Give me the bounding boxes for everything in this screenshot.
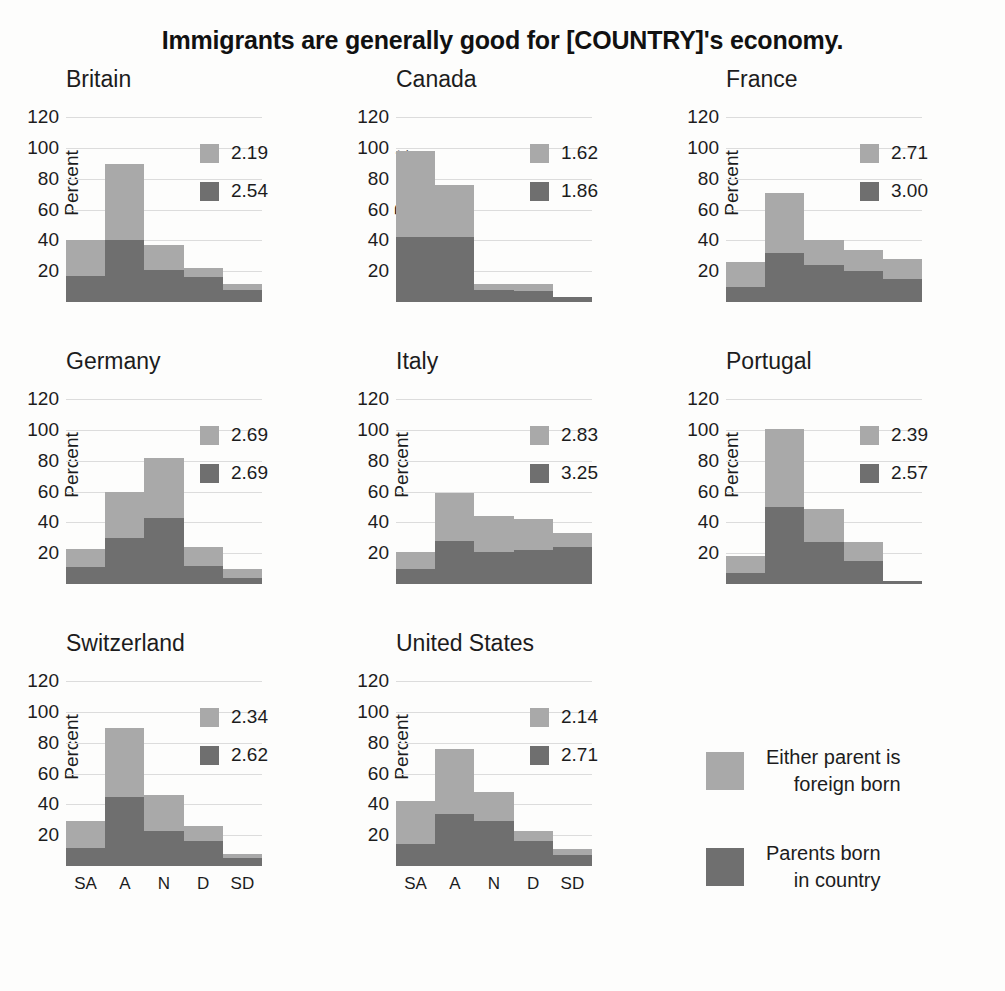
x-axis-tick: SD xyxy=(553,874,592,894)
panel-mean-legend: 2.142.71 xyxy=(530,706,598,766)
bar-a[interactable] xyxy=(105,666,144,866)
bar-n[interactable] xyxy=(804,102,843,302)
bar-sa[interactable] xyxy=(726,384,765,584)
bar-n[interactable] xyxy=(144,666,183,866)
bar-sa[interactable] xyxy=(66,102,105,302)
bar-d[interactable] xyxy=(184,384,223,584)
bar-n[interactable] xyxy=(474,666,513,866)
y-axis-tick: 80 xyxy=(38,732,59,754)
bar-sd[interactable] xyxy=(223,102,262,302)
y-axis-tick: 40 xyxy=(38,511,59,533)
y-axis-tick: 60 xyxy=(368,481,389,503)
y-axis-tick: 40 xyxy=(368,229,389,251)
bar-n[interactable] xyxy=(144,384,183,584)
panel-mean-legend: 2.692.69 xyxy=(200,424,268,484)
bar-sd[interactable] xyxy=(553,666,592,866)
bar-d[interactable] xyxy=(184,666,223,866)
bar-d[interactable] xyxy=(844,384,883,584)
mean-legend-row: 3.25 xyxy=(530,462,598,484)
bar-d[interactable] xyxy=(844,102,883,302)
y-axis-tick: 60 xyxy=(38,481,59,503)
panel-mean-legend: 2.342.62 xyxy=(200,706,268,766)
y-axis-tick: 20 xyxy=(38,260,59,282)
bar-segment-native-born xyxy=(844,561,883,584)
bar-segment-native-born xyxy=(396,844,435,866)
bar-a[interactable] xyxy=(105,102,144,302)
bar-n[interactable] xyxy=(144,102,183,302)
bar-sa[interactable] xyxy=(396,384,435,584)
bar-a[interactable] xyxy=(435,384,474,584)
y-axis-tick: 60 xyxy=(698,481,719,503)
y-axis-tick: 100 xyxy=(357,137,389,159)
bar-segment-native-born xyxy=(883,279,922,302)
bar-segment-foreign-born xyxy=(804,509,843,543)
mean-legend-row: 2.34 xyxy=(200,706,268,728)
bar-d[interactable] xyxy=(514,384,553,584)
y-axis-tick: 40 xyxy=(368,793,389,815)
mean-value-foreign-born: 2.71 xyxy=(891,142,928,164)
y-axis-tick: 20 xyxy=(368,542,389,564)
panel-title: Switzerland xyxy=(66,630,185,657)
y-axis-tick: 120 xyxy=(357,670,389,692)
mean-legend-row: 2.71 xyxy=(860,142,928,164)
bar-segment-native-born xyxy=(514,841,553,866)
plot-area: Percent204060801001202.142.71 xyxy=(396,666,592,866)
bar-segment-native-born xyxy=(105,240,144,302)
bar-a[interactable] xyxy=(105,384,144,584)
plot-area: Percent204060801001202.713.00 xyxy=(726,102,922,302)
bar-segment-foreign-born xyxy=(105,492,144,538)
mean-legend-row: 3.00 xyxy=(860,180,928,202)
panel-mean-legend: 2.192.54 xyxy=(200,142,268,202)
bar-n[interactable] xyxy=(474,384,513,584)
bar-segment-foreign-born xyxy=(474,792,513,821)
bar-n[interactable] xyxy=(474,102,513,302)
bar-segment-native-born xyxy=(804,265,843,302)
bar-n[interactable] xyxy=(804,384,843,584)
y-axis-tick: 40 xyxy=(698,229,719,251)
y-axis-tick: 100 xyxy=(687,419,719,441)
bar-sd[interactable] xyxy=(883,102,922,302)
bar-sa[interactable] xyxy=(66,384,105,584)
bar-sd[interactable] xyxy=(223,384,262,584)
bar-segment-foreign-born xyxy=(184,547,223,565)
bar-segment-native-born xyxy=(514,550,553,584)
mean-swatch-light-icon xyxy=(200,426,219,445)
bar-segment-foreign-born xyxy=(514,519,553,550)
panel-title: Canada xyxy=(396,66,477,93)
legend-label-foreign-born: Either parent is foreign born xyxy=(766,744,901,798)
bar-d[interactable] xyxy=(514,666,553,866)
bar-segment-foreign-born xyxy=(396,552,435,569)
bar-a[interactable] xyxy=(435,102,474,302)
chart-figure: Immigrants are generally good for [COUNT… xyxy=(0,0,1005,991)
mean-value-foreign-born: 2.83 xyxy=(561,424,598,446)
bar-d[interactable] xyxy=(514,102,553,302)
bar-a[interactable] xyxy=(765,102,804,302)
mean-value-foreign-born: 2.69 xyxy=(231,424,268,446)
x-axis-tick: SA xyxy=(396,874,435,894)
mean-swatch-light-icon xyxy=(860,144,879,163)
bar-a[interactable] xyxy=(435,666,474,866)
bar-group xyxy=(66,384,262,584)
bar-segment-foreign-born xyxy=(66,240,105,275)
bar-a[interactable] xyxy=(765,384,804,584)
x-axis-tick: A xyxy=(105,874,144,894)
legend-item-native-born: Parents born in country xyxy=(706,840,901,894)
bar-segment-native-born xyxy=(726,573,765,584)
bar-sa[interactable] xyxy=(396,666,435,866)
bar-sd[interactable] xyxy=(223,666,262,866)
bar-sa[interactable] xyxy=(66,666,105,866)
x-axis-tick: N xyxy=(474,874,513,894)
x-axis-tick: SA xyxy=(66,874,105,894)
bar-sd[interactable] xyxy=(883,384,922,584)
mean-swatch-dark-icon xyxy=(200,464,219,483)
bar-segment-foreign-born xyxy=(474,516,513,551)
bar-sa[interactable] xyxy=(726,102,765,302)
bar-sd[interactable] xyxy=(553,384,592,584)
bar-segment-native-born xyxy=(726,287,765,302)
panel-title: United States xyxy=(396,630,534,657)
mean-legend-row: 2.54 xyxy=(200,180,268,202)
bar-sd[interactable] xyxy=(553,102,592,302)
mean-legend-row: 2.14 xyxy=(530,706,598,728)
bar-sa[interactable] xyxy=(396,102,435,302)
bar-d[interactable] xyxy=(184,102,223,302)
